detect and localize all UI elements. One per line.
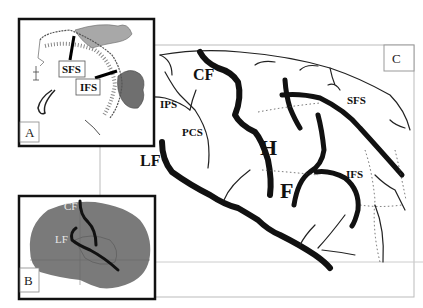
- temporal-line: [375, 205, 383, 262]
- panel-b: CF LF B: [19, 196, 155, 299]
- lf-branch: [300, 225, 315, 245]
- panel-a-label-ifs: IFS: [80, 81, 97, 93]
- gyrus-line: [160, 55, 172, 75]
- gyrus-line: [375, 175, 405, 210]
- frontal-sulcus-upper: [285, 80, 300, 128]
- pcs-sulcus: [165, 72, 209, 168]
- panel-c-tag: C: [392, 51, 401, 66]
- label-lf: LF: [140, 152, 161, 169]
- lf-branch: [224, 170, 250, 200]
- label-ifs: IFS: [346, 168, 363, 180]
- lateral-fissure: [162, 142, 330, 268]
- label-pcs: PCS: [182, 126, 203, 138]
- superior-frontal-sulcus: [282, 94, 402, 175]
- label-sfs: SFS: [347, 94, 366, 106]
- lf-branch: [318, 215, 345, 248]
- panel-b-label-lf: LF: [55, 233, 68, 245]
- panel-a-label-sfs: SFS: [62, 63, 81, 75]
- brain-sulci-figure: C CF IPS: [0, 0, 423, 308]
- panel-a-tag: A: [25, 125, 35, 140]
- label-cf: CF: [193, 66, 215, 83]
- gyrus-line: [390, 120, 405, 128]
- dotted-grid: [360, 205, 402, 207]
- ips-branch: [190, 90, 196, 110]
- panel-b-label-cf: CF: [64, 200, 77, 212]
- label-ips: IPS: [160, 98, 177, 110]
- label-h: H: [260, 135, 277, 160]
- panel-b-tag: B: [24, 273, 33, 288]
- panel-a: SFS IFS A: [19, 19, 154, 146]
- lf-branch: [322, 250, 355, 255]
- label-f: F: [280, 178, 293, 203]
